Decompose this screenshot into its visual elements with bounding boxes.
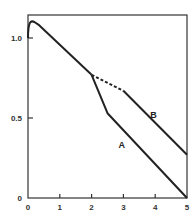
data-lines (28, 21, 187, 198)
x-tick-label: 4 (153, 203, 158, 212)
line-chart: 00.51.0 012345 AB (0, 0, 196, 215)
x-axis-ticks: 012345 (26, 194, 190, 212)
y-tick-label: 1.0 (11, 34, 23, 43)
x-tick-label: 2 (89, 203, 94, 212)
y-tick-label: 0.5 (11, 114, 23, 123)
x-tick-label: 0 (26, 203, 31, 212)
x-tick-label: 1 (58, 203, 63, 212)
y-tick-label: 0 (18, 194, 23, 203)
shared-curve-line (28, 21, 92, 74)
series-label-a: A (119, 140, 126, 150)
x-tick-label: 3 (121, 203, 126, 212)
x-tick-label: 5 (185, 203, 190, 212)
y-axis-ticks: 00.51.0 (11, 34, 33, 203)
series-a-line (92, 75, 187, 198)
series-b-line (123, 91, 187, 155)
series-label-b: B (150, 110, 157, 120)
plot-frame (28, 15, 187, 198)
